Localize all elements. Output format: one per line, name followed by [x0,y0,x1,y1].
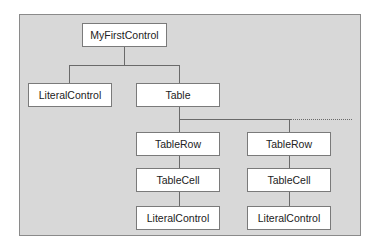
edge-table-horizontal [179,119,290,120]
edge-root-down [124,46,125,65]
node-myfirstcontrol: MyFirstControl [82,23,167,47]
edge-to-table [179,65,180,83]
diagram-frame [19,14,361,236]
node-literalcontrol: LiteralControl [28,83,112,107]
edge-to-row2 [289,119,290,132]
node-literalcontrol-2: LiteralControl [136,206,220,230]
edge-row2-cell2 [289,155,290,168]
edge-row1-cell1 [179,155,180,168]
node-tablerow-2: TableRow [247,132,331,156]
node-tablecell-1: TableCell [136,168,220,192]
node-tablerow-1: TableRow [136,132,220,156]
edge-continuation-dotted [290,119,352,120]
node-tablecell-2: TableCell [247,168,331,192]
node-table: Table [136,83,220,107]
edge-cell1-lit2 [179,191,180,206]
edge-root-horizontal [69,65,180,66]
node-literalcontrol-3: LiteralControl [247,206,331,230]
edge-cell2-lit3 [289,191,290,206]
edge-to-literal [69,65,70,83]
